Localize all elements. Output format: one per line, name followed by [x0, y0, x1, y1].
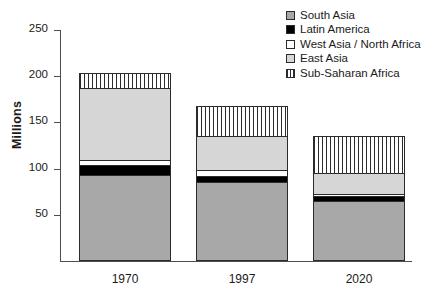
bar-group: [196, 106, 288, 261]
bar-segment: [196, 106, 288, 136]
bar-segment: [79, 175, 171, 261]
x-axis-line: [60, 261, 412, 262]
legend-swatch-icon: [286, 54, 295, 63]
bar-segment: [79, 88, 171, 160]
y-tick: 100: [2, 169, 60, 170]
y-tick-label: 50: [35, 207, 48, 219]
legend-label: East Asia: [300, 53, 348, 65]
legend-item: West Asia / North Africa: [286, 37, 421, 52]
y-axis-title: Millions: [10, 70, 24, 180]
y-tick: 150: [2, 122, 60, 123]
chart-legend: South AsiaLatin AmericaWest Asia / North…: [286, 8, 421, 81]
legend-item: East Asia: [286, 52, 421, 67]
legend-swatch-icon: [286, 11, 295, 20]
legend-swatch-icon: [286, 40, 295, 49]
legend-item: Sub-Saharan Africa: [286, 66, 421, 81]
bar-segment: [313, 136, 405, 173]
x-axis-label: 1997: [182, 272, 302, 286]
legend-label: South Asia: [300, 10, 355, 22]
legend-label: Sub-Saharan Africa: [300, 68, 400, 80]
bar-segment: [313, 201, 405, 261]
y-tick: 200: [2, 76, 60, 77]
bar-segment: [196, 182, 288, 261]
x-axis-label: 1970: [65, 272, 185, 286]
y-tick-mark: [54, 76, 60, 77]
y-tick-mark: [54, 215, 60, 216]
bar-segment: [79, 73, 171, 89]
y-tick-mark: [54, 122, 60, 123]
y-tick-label: 250: [29, 22, 48, 34]
bar-segment: [196, 136, 288, 170]
legend-item: Latin America: [286, 23, 421, 38]
x-axis-label: 2020: [299, 272, 419, 286]
y-tick-mark: [54, 169, 60, 170]
legend-label: West Asia / North Africa: [300, 39, 421, 51]
stacked-bar-chart: Millions 25020015010050 197019972020 Sou…: [0, 0, 438, 299]
bar-stack: [79, 73, 171, 261]
y-tick-mark: [54, 30, 60, 31]
bar-segment: [79, 165, 171, 175]
y-tick: 50: [2, 215, 60, 216]
legend-swatch-icon: [286, 69, 295, 78]
legend-item: South Asia: [286, 8, 421, 23]
y-tick: 250: [2, 30, 60, 31]
y-tick-label: 150: [29, 114, 48, 126]
bar-segment: [313, 173, 405, 193]
bar-stack: [313, 136, 405, 261]
y-tick-label: 200: [29, 68, 48, 80]
y-tick-label: 100: [29, 161, 48, 173]
legend-swatch-icon: [286, 25, 295, 34]
bar-stack: [196, 106, 288, 261]
bar-group: [313, 136, 405, 261]
legend-label: Latin America: [300, 24, 370, 36]
y-axis-line: [60, 30, 61, 262]
bar-group: [79, 73, 171, 261]
